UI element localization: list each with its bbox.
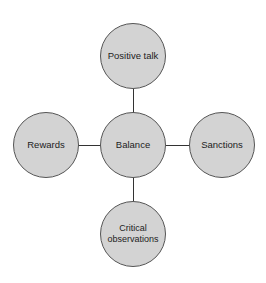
connector-left [78, 145, 102, 146]
node-rewards: Rewards [13, 112, 79, 178]
connector-top [133, 89, 134, 113]
node-sanctions: Sanctions [189, 112, 255, 178]
node-balance: Balance [100, 112, 166, 178]
connector-bottom [133, 177, 134, 201]
node-label: Positive talk [108, 50, 159, 62]
node-label: Critical observations [103, 223, 163, 246]
node-positive-talk: Positive talk [100, 23, 166, 89]
node-label: Rewards [27, 139, 65, 151]
node-label: Balance [116, 139, 150, 151]
node-critical-observations: Critical observations [100, 201, 166, 267]
connector-right [166, 145, 190, 146]
node-label: Sanctions [201, 139, 243, 151]
